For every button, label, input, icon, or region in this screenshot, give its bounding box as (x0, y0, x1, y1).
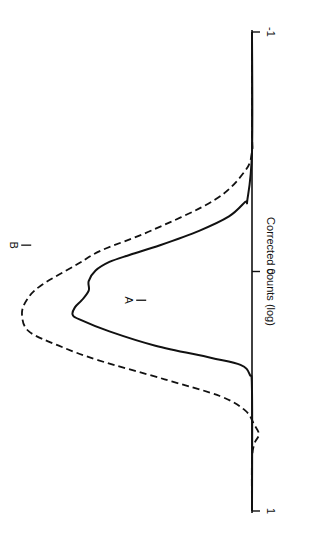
series-a-line (72, 32, 252, 511)
annotations: AB (8, 241, 146, 304)
x-tick-label: -1 (265, 27, 277, 37)
annotation-label-b: B (8, 241, 20, 248)
series-b-line (22, 32, 259, 511)
series-group (22, 32, 259, 511)
x-axis-label: Corrected counts (log) (265, 217, 277, 326)
chart: -101 AB Corrected counts (log) (0, 0, 325, 546)
annotation-label-a: A (123, 297, 135, 305)
x-tick-label: 1 (265, 508, 277, 514)
